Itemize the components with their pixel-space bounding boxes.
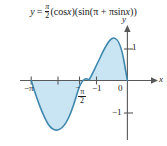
y-tick-label--1: −1 xyxy=(112,107,122,117)
x-tick-label--pi-over-2: −π 2 xyxy=(73,84,87,105)
function-graph-figure: y=π2(cosx)(sin(π + πsinx)) −π −π 2 −1 0 … xyxy=(0,0,167,146)
plot-canvas xyxy=(0,0,167,146)
shaded-region-upper xyxy=(89,38,127,81)
x-tick-label--1: −1 xyxy=(92,83,102,93)
y-axis-arrow-icon xyxy=(124,25,130,32)
x-tick-label--pi: −π xyxy=(24,83,34,93)
x-tick-label--pi-over-2-top: −π xyxy=(73,84,87,96)
x-axis-arrow-icon xyxy=(151,77,158,83)
y-tick-label-1: 1 xyxy=(132,42,137,52)
fraction-num-pi: π xyxy=(80,87,84,96)
x-tick-label-0: 0 xyxy=(118,83,123,93)
x-axis-label: x xyxy=(159,74,163,84)
fraction-den-2: 2 xyxy=(78,96,86,105)
y-axis-label: y xyxy=(122,14,126,24)
